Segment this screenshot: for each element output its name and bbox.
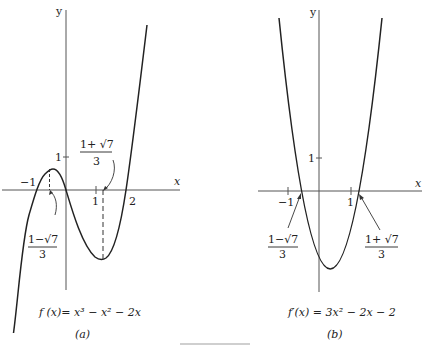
panel-b: y x −1 1 1 1−√7 3 1+ √7 3 f′(x) = 3x² − … (258, 6, 422, 341)
panel-a: y x −1 1 2 1 1+ √7 3 1−√7 3 f (x)= x³ − … (2, 5, 181, 341)
xtick-label-1-b: 1 (347, 196, 354, 209)
panel-label-a: (a) (75, 328, 90, 341)
formula-a: f (x)= x³ − x² − 2x (38, 306, 142, 319)
y-axis-label-a: y (55, 5, 63, 18)
frac-plus-den-a: 3 (93, 155, 100, 168)
frac-minus-den-b: 3 (279, 248, 286, 261)
figure-canvas: y x −1 1 2 1 1+ √7 3 1−√7 3 f (x)= x³ − … (0, 0, 427, 345)
panel-label-b: (b) (327, 328, 343, 341)
frac-minus-den-a: 3 (39, 248, 46, 261)
arrowhead-root-minus-b (297, 193, 301, 199)
x-axis-label-a: x (174, 175, 181, 188)
xtick-label-neg1-b: −1 (278, 196, 294, 209)
frac-plus-num-b: 1+ √7 (365, 233, 399, 246)
arrow-root-plus-a (104, 160, 114, 190)
formula-b: f′(x) = 3x² − 2x − 2 (287, 306, 396, 319)
arrow-root-minus-a (50, 191, 56, 215)
y-axis-label-b: y (309, 6, 317, 19)
arrow-root-plus-b (361, 197, 380, 230)
frac-plus-num-a: 1+ √7 (80, 138, 114, 151)
frac-minus-num-a: 1−√7 (28, 233, 58, 246)
xtick-label-1-a: 1 (92, 195, 99, 208)
frac-minus-num-b: 1−√7 (268, 233, 298, 246)
arrowhead-root-minus-a (49, 190, 53, 195)
xtick-label-2-a: 2 (129, 195, 136, 208)
curve-f-prime (279, 18, 382, 269)
frac-plus-den-b: 3 (378, 248, 385, 261)
ytick-label-1-b: 1 (308, 152, 315, 165)
x-axis-label-b: x (415, 177, 422, 190)
ytick-label-1-a: 1 (55, 151, 62, 164)
arrowhead-root-plus-b (359, 194, 364, 200)
xtick-label-neg1-a: −1 (20, 176, 36, 189)
